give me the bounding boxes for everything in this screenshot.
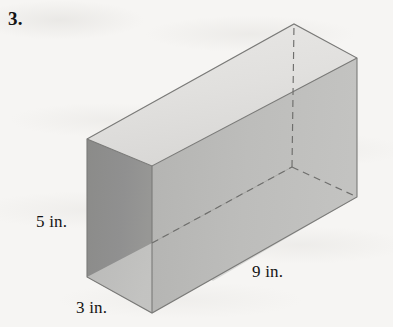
- rectangular-prism-illustration: [0, 0, 393, 327]
- figure-canvas: 3. 5 in. 3 in. 9 in.: [0, 0, 393, 327]
- problem-number: 3.: [8, 9, 23, 28]
- dimension-label-length: 9 in.: [252, 263, 283, 280]
- dimension-label-height: 5 in.: [36, 213, 67, 230]
- dimension-label-depth: 3 in.: [76, 299, 107, 316]
